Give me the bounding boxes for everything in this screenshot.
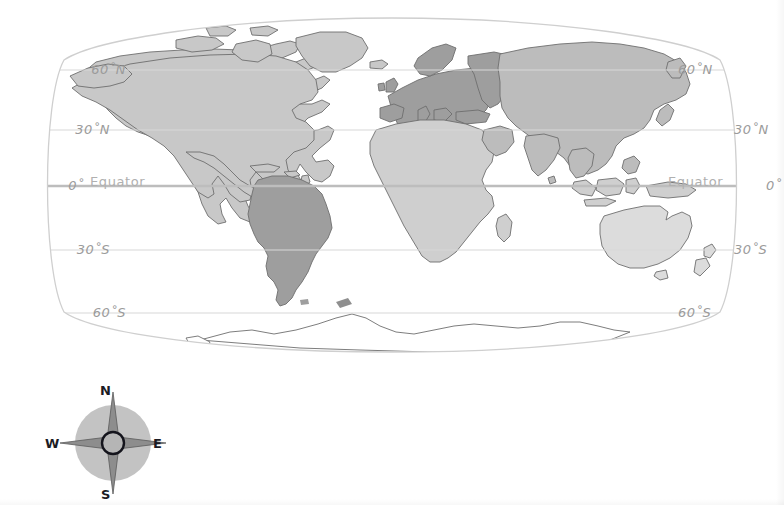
compass-hub	[102, 432, 124, 454]
equator-label-right: Equator	[668, 174, 723, 189]
latitude-label-30n-left: 30˚N	[0, 122, 110, 137]
latitude-label-60s-left: 60˚S	[14, 305, 126, 320]
compass-label-north: N	[100, 383, 111, 398]
latitude-label-30s-left: 30˚S	[0, 242, 110, 257]
latitude-label-30n-right: 30˚N	[734, 122, 769, 137]
latitude-label-60n-left: 60˚N	[14, 62, 126, 77]
equator-label-left: Equator	[90, 174, 145, 189]
landmass-ireland	[378, 83, 385, 91]
latitude-label-0-left: 0˚	[0, 178, 84, 193]
latitude-label-30s-right: 30˚S	[734, 242, 767, 257]
landmass-falklands	[300, 299, 309, 305]
compass-label-east: E	[153, 436, 162, 451]
landmass-sri-lanka	[548, 176, 556, 184]
latitude-label-60s-right: 60˚S	[678, 305, 711, 320]
compass-label-south: S	[101, 487, 110, 502]
latitude-label-60n-right: 60˚N	[678, 62, 713, 77]
landmass-turkey	[456, 110, 490, 124]
latitude-label-0-right: 0˚	[766, 178, 782, 193]
compass-label-west: W	[45, 436, 59, 451]
world-map-figure: 60˚N 30˚N 0˚ 30˚S 60˚S 60˚N 30˚N 0˚ 30˚S…	[0, 0, 784, 505]
